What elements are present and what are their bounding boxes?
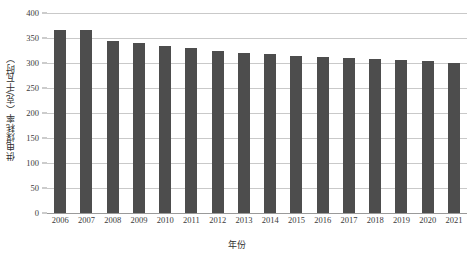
bar[interactable] [159, 46, 171, 214]
y-axis-tick-labels: 050100150200250300350400 [0, 13, 47, 213]
y-axis-tick-label: 400 [26, 9, 39, 18]
y-axis-tick-label: 300 [26, 59, 39, 68]
bar[interactable] [238, 53, 250, 214]
bar[interactable] [395, 60, 407, 214]
bar-slot [388, 13, 414, 213]
bar-slot [178, 13, 204, 213]
bar-slot [415, 13, 441, 213]
y-axis-tick-label: 250 [26, 84, 39, 93]
bar[interactable] [369, 59, 381, 213]
plot-area [47, 13, 467, 213]
x-axis-tick-label: 2018 [367, 216, 384, 225]
x-axis-tick-label: 2011 [183, 216, 200, 225]
y-axis-tick-label: 100 [26, 159, 39, 168]
bar[interactable] [343, 58, 355, 213]
y-axis-tick-label: 150 [26, 134, 39, 143]
bar-slot [283, 13, 309, 213]
bar[interactable] [80, 30, 92, 213]
bar[interactable] [317, 57, 329, 213]
x-axis-tick-label: 2007 [78, 216, 95, 225]
bar[interactable] [448, 63, 460, 214]
bar-series [47, 13, 467, 213]
x-axis-tick-label: 2017 [340, 216, 357, 225]
bar-slot [257, 13, 283, 213]
x-axis-tick-label: 2008 [104, 216, 121, 225]
x-axis-tick-label: 2009 [130, 216, 147, 225]
bar-slot [362, 13, 388, 213]
bar[interactable] [290, 56, 302, 214]
x-axis-tick-label: 2019 [393, 216, 410, 225]
bar-slot [152, 13, 178, 213]
bar-slot [47, 13, 73, 213]
bar-chart: 供电煤耗率（克/千瓦时） 050100150200250300350400 20… [0, 0, 475, 264]
bar[interactable] [133, 43, 145, 213]
bar[interactable] [212, 51, 224, 214]
x-axis-tick-label: 2020 [419, 216, 436, 225]
bar-slot [126, 13, 152, 213]
x-axis-tick-label: 2016 [314, 216, 331, 225]
y-axis-tick-label: 200 [26, 109, 39, 118]
x-axis-tick-label: 2006 [52, 216, 69, 225]
y-axis-tick-label: 350 [26, 34, 39, 43]
x-axis-title: 年份 [0, 238, 475, 251]
bar[interactable] [107, 41, 119, 214]
x-axis-tick-label: 2015 [288, 216, 305, 225]
bar-slot [73, 13, 99, 213]
bar-slot [205, 13, 231, 213]
bar-slot [100, 13, 126, 213]
bar-slot [231, 13, 257, 213]
y-axis-tick-label: 0 [35, 209, 39, 218]
bar-slot [441, 13, 467, 213]
bar[interactable] [185, 48, 197, 213]
x-axis-tick-label: 2010 [157, 216, 174, 225]
y-axis-tick-label: 50 [31, 184, 40, 193]
bar[interactable] [54, 30, 66, 214]
x-axis-tick-label: 2012 [209, 216, 226, 225]
axis-baseline [47, 213, 467, 214]
bar-slot [310, 13, 336, 213]
x-axis-tick-labels: 2006200720082009201020112012201320142015… [47, 216, 467, 232]
bar-slot [336, 13, 362, 213]
x-axis-tick-label: 2021 [445, 216, 462, 225]
x-axis-tick-label: 2014 [262, 216, 279, 225]
bar[interactable] [264, 54, 276, 213]
x-axis-tick-label: 2013 [235, 216, 252, 225]
bar[interactable] [422, 61, 434, 214]
